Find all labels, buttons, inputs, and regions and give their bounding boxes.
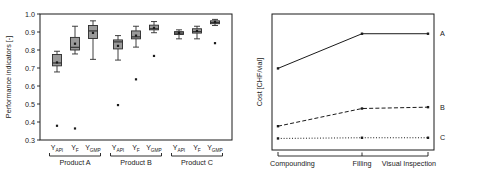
x-axis-category-label: YAPI — [173, 144, 185, 153]
y-axis-tick-label: 0.8 — [25, 46, 35, 55]
boxplot-item — [193, 26, 202, 39]
cost-series-line — [278, 138, 428, 139]
mean-marker — [196, 30, 198, 32]
group-brace — [50, 153, 101, 156]
outlier-point — [153, 55, 155, 57]
x-axis-brace-path — [278, 152, 428, 156]
group-label: Product A — [59, 158, 90, 167]
y-axis-tick-label: 0.5 — [25, 100, 35, 109]
x-axis-category-label: YGMP — [85, 144, 101, 153]
line-plot-frame — [272, 14, 434, 150]
x-axis-category-label: Filling — [353, 159, 372, 168]
cost-data-point — [277, 137, 279, 139]
cost-data-point — [427, 106, 429, 108]
y-axis-tick-label: 0.4 — [25, 118, 35, 127]
x-axis-category-label: YF — [193, 144, 201, 153]
outlier-point — [74, 127, 76, 129]
boxplot-item — [89, 21, 98, 60]
group-brace — [111, 153, 162, 156]
y-axis-tick-label: 0.9 — [25, 28, 35, 37]
boxplot-item — [150, 22, 159, 57]
boxplot-series — [53, 19, 220, 129]
group-labels: Product AProduct BProduct C — [59, 158, 213, 167]
cost-series-group — [277, 33, 429, 140]
x-axis-category-label: Visual Inspection — [382, 159, 436, 168]
boxplot-item — [211, 19, 220, 44]
x-axis-category-label: YGMP — [207, 144, 223, 153]
mean-marker — [92, 32, 94, 34]
cost-data-point — [361, 33, 363, 35]
cost-data-point — [277, 125, 279, 127]
outlier-point — [135, 78, 137, 80]
mean-marker — [117, 45, 119, 47]
x-axis-brace — [278, 152, 428, 156]
y-axis-title: Cost [CHF/vial] — [255, 58, 264, 106]
line-chart-svg: ABC CompoundingFillingVisual Inspection … — [240, 0, 480, 185]
cost-series-line — [278, 107, 428, 126]
boxplot-svg: 0.30.40.50.60.70.80.91.0 YAPIYFYGMPYAPIY… — [0, 0, 240, 185]
cost-data-point — [427, 137, 429, 139]
boxplot-item — [175, 30, 184, 39]
mean-marker — [178, 32, 180, 34]
x-axis-category-label: YAPI — [51, 144, 63, 153]
group-label: Product B — [120, 158, 152, 167]
group-braces — [50, 153, 223, 156]
cost-series-line — [278, 34, 428, 69]
mean-marker — [214, 21, 216, 23]
group-label: Product C — [181, 158, 213, 167]
cost-data-point — [277, 67, 279, 69]
outlier-point — [56, 125, 58, 127]
y-axis-tick-labels: 0.30.40.50.60.70.80.91.0 — [25, 10, 35, 145]
mean-marker — [56, 61, 58, 63]
series-label: A — [440, 29, 445, 38]
x-axis-category-label: YF — [71, 144, 79, 153]
box-iqr — [53, 55, 62, 66]
x-axis-category-labels: YAPIYFYGMPYAPIYFYGMPYAPIYFYGMP — [51, 144, 223, 153]
y-axis-tick-label: 0.3 — [25, 136, 35, 145]
outlier-point — [117, 104, 119, 106]
cost-line-panel: ABC CompoundingFillingVisual Inspection … — [240, 0, 480, 185]
y-axis-tick-label: 0.7 — [25, 64, 35, 73]
series-label: C — [440, 133, 445, 142]
mean-marker — [74, 43, 76, 45]
x-axis-category-label: Compounding — [270, 159, 315, 168]
y-axis-title: Performance indicators [-] — [4, 36, 13, 118]
figure-container: 0.30.40.50.60.70.80.91.0 YAPIYFYGMPYAPIY… — [0, 0, 480, 185]
x-axis-category-labels: CompoundingFillingVisual Inspection — [270, 159, 436, 168]
mean-marker — [153, 27, 155, 29]
y-axis-tick-label: 1.0 — [25, 10, 35, 19]
cost-data-point — [361, 137, 363, 139]
y-axis-tick-label: 0.6 — [25, 82, 35, 91]
series-label: B — [440, 103, 445, 112]
series-labels: ABC — [440, 29, 445, 142]
cost-data-point — [427, 33, 429, 35]
x-axis-category-label: YAPI — [112, 144, 124, 153]
cost-data-point — [361, 107, 363, 109]
box-iqr — [114, 40, 123, 49]
x-axis-category-label: YF — [132, 144, 140, 153]
group-brace — [172, 153, 223, 156]
boxplot-item — [53, 51, 62, 127]
boxplot-panel: 0.30.40.50.60.70.80.91.0 YAPIYFYGMPYAPIY… — [0, 0, 240, 185]
outlier-point — [214, 42, 216, 44]
boxplot-item — [114, 36, 123, 107]
boxplot-item — [71, 26, 80, 129]
boxplot-item — [132, 26, 141, 80]
x-axis-category-label: YGMP — [146, 144, 162, 153]
mean-marker — [135, 35, 137, 37]
